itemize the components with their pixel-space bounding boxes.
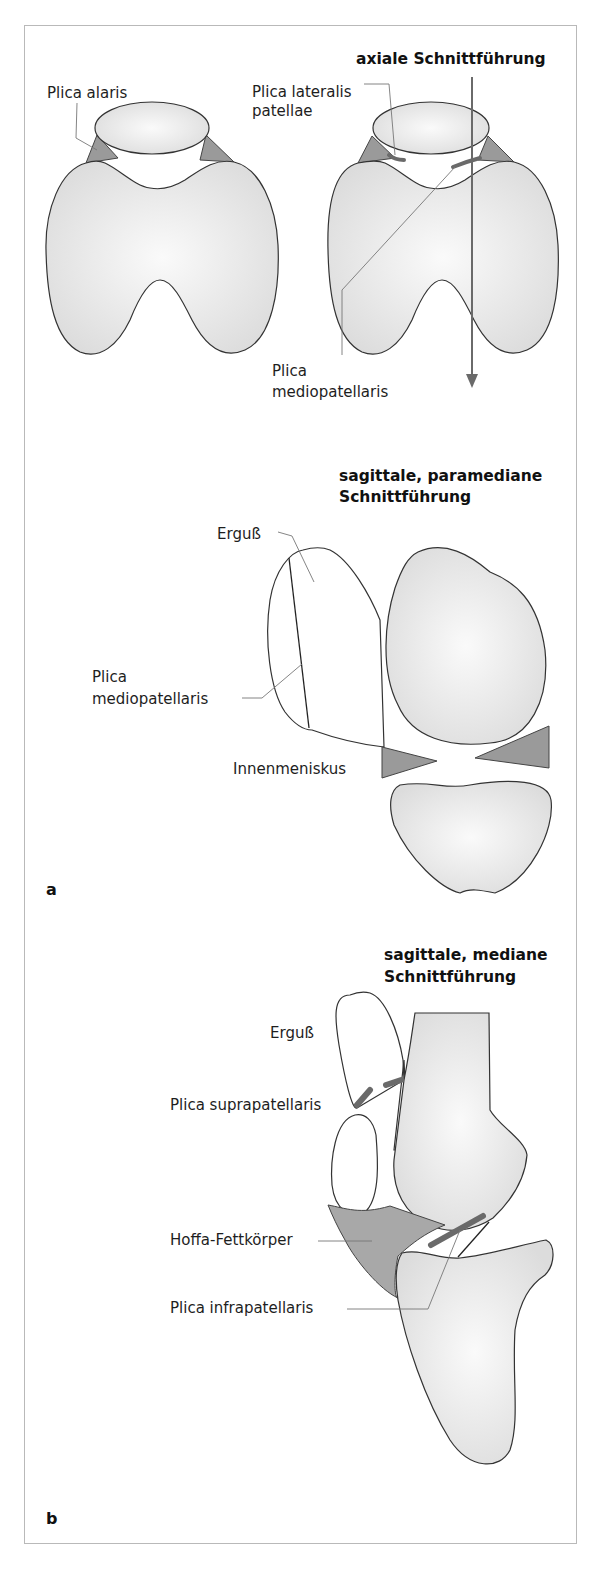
label-plica-infrapatellaris: Plica infrapatellaris bbox=[170, 1299, 314, 1317]
heading-median-1: sagittale, mediane bbox=[384, 946, 548, 964]
label-innenmeniskus: Innenmeniskus bbox=[233, 760, 346, 778]
heading-axial: axiale Schnittführung bbox=[356, 50, 546, 68]
heading-paramedian-2: Schnittführung bbox=[339, 488, 471, 506]
right-femur-condyles bbox=[328, 161, 558, 354]
label-plica-lateralis-1: Plica lateralis bbox=[252, 83, 352, 101]
label-plica-medio-para-1: Plica bbox=[92, 668, 127, 686]
left-alaris-triangle-right bbox=[200, 135, 234, 162]
left-femur-condyles bbox=[46, 161, 278, 354]
paramedian-femur bbox=[386, 548, 546, 745]
axial-left-view: Plica alaris bbox=[46, 84, 278, 354]
panel-label-a: a bbox=[46, 880, 57, 899]
panel-label-b: b bbox=[46, 1509, 57, 1528]
label-plica-medio-para-2: mediopatellaris bbox=[92, 690, 208, 708]
sagittal-paramedian-view: sagittale, paramediane Schnittführung Er… bbox=[92, 467, 551, 893]
label-plica-suprapatellaris: Plica suprapatellaris bbox=[170, 1096, 321, 1114]
paramedian-effusion-capsule bbox=[268, 548, 384, 747]
paramedian-meniscus-front bbox=[382, 747, 437, 778]
median-femur bbox=[394, 1013, 527, 1230]
axial-cut-arrow-head bbox=[466, 374, 478, 388]
label-plica-medio-axial-2: mediopatellaris bbox=[272, 383, 388, 401]
label-hoffa-fettkoerper: Hoffa-Fettkörper bbox=[170, 1231, 293, 1249]
label-erguss-median: Erguß bbox=[270, 1024, 314, 1042]
plica-lateralis-patellae-mark bbox=[389, 155, 404, 160]
sagittal-median-view: sagittale, mediane Schnittführung Erguß … bbox=[170, 946, 553, 1464]
left-patella bbox=[95, 102, 209, 154]
plica-mediopatellaris-mark bbox=[453, 158, 480, 167]
label-plica-medio-axial-1: Plica bbox=[272, 362, 307, 380]
knee-plica-diagram: Plica alaris axiale Schnittführung Plica… bbox=[0, 0, 598, 1572]
median-tibia bbox=[396, 1240, 553, 1464]
heading-paramedian-1: sagittale, paramediane bbox=[339, 467, 542, 485]
axial-right-view: axiale Schnittführung Plica lateralis pa… bbox=[252, 50, 558, 401]
label-plica-alaris: Plica alaris bbox=[47, 84, 127, 102]
median-patella bbox=[332, 1115, 378, 1214]
heading-median-2: Schnittführung bbox=[384, 968, 516, 986]
label-erguss-paramedian: Erguß bbox=[217, 525, 261, 543]
label-plica-lateralis-2: patellae bbox=[252, 102, 313, 120]
paramedian-tibia bbox=[391, 781, 552, 893]
